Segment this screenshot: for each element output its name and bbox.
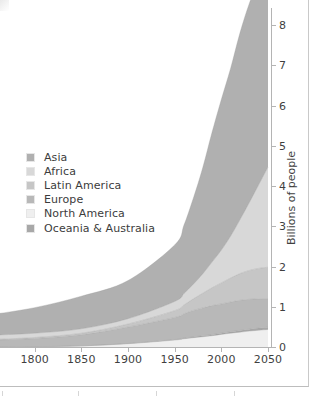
y-tick-mark	[272, 307, 276, 308]
y-tick-mark	[272, 65, 276, 66]
legend-item-label: Africa	[44, 165, 76, 178]
legend-swatch-latin-america	[26, 181, 35, 190]
x-tick-label: 1800	[20, 353, 48, 366]
legend-item-latin-america[interactable]: Latin America	[26, 178, 155, 192]
below-panel-tick	[234, 391, 235, 396]
legend-item-north-america[interactable]: North America	[26, 207, 155, 221]
below-panel-tick	[156, 391, 157, 396]
legend: AsiaAfricaLatin AmericaEuropeNorth Ameri…	[26, 150, 155, 235]
legend-item-label: Oceania & Australia	[44, 222, 155, 235]
legend-item-africa[interactable]: Africa	[26, 164, 155, 178]
legend-item-asia[interactable]: Asia	[26, 150, 155, 164]
x-tick-label: 1900	[114, 353, 142, 366]
y-tick-label: 8	[279, 19, 286, 32]
legend-item-label: Asia	[44, 151, 67, 164]
x-tick-mark	[35, 348, 36, 352]
legend-item-europe[interactable]: Europe	[26, 193, 155, 207]
legend-item-oceania-australia[interactable]: Oceania & Australia	[26, 221, 155, 235]
y-tick-mark	[272, 146, 276, 147]
legend-item-label: Europe	[44, 193, 83, 206]
legend-item-label: Latin America	[44, 179, 121, 192]
below-panel-tick	[78, 391, 79, 396]
y-tick-mark	[272, 347, 276, 348]
x-tick-mark	[268, 348, 269, 352]
legend-swatch-europe	[26, 195, 35, 204]
figure-root: 50180018501900195020002050 012345678 Bil…	[0, 0, 318, 398]
y-tick-label: 7	[279, 59, 286, 72]
legend-swatch-oceania-australia	[26, 224, 35, 233]
y-tick-mark	[272, 267, 276, 268]
y-tick-mark	[272, 186, 276, 187]
y-tick-label: 2	[279, 260, 286, 273]
y-axis-title: Billions of people	[285, 151, 298, 245]
x-axis-line	[0, 347, 272, 348]
x-tick-mark	[221, 348, 222, 352]
y-tick-mark	[272, 106, 276, 107]
y-axis-line	[271, 8, 272, 348]
x-tick-mark	[81, 348, 82, 352]
y-tick-mark	[272, 25, 276, 26]
below-panel-tick	[2, 391, 3, 396]
x-tick-mark	[128, 348, 129, 352]
legend-swatch-africa	[26, 167, 35, 176]
x-tick-mark	[175, 348, 176, 352]
legend-swatch-asia	[26, 153, 35, 162]
x-tick-label: 1850	[67, 353, 95, 366]
legend-swatch-north-america	[26, 209, 35, 218]
y-tick-label: 6	[279, 99, 286, 112]
y-tick-mark	[272, 226, 276, 227]
x-tick-label: 2050	[254, 353, 282, 366]
legend-item-label: North America	[44, 207, 125, 220]
y-tick-label: 1	[279, 300, 286, 313]
x-tick-label: 2000	[207, 353, 235, 366]
x-tick-label: 1950	[160, 353, 188, 366]
y-tick-label: 0	[279, 341, 286, 354]
